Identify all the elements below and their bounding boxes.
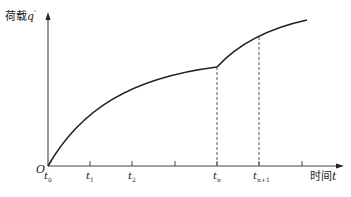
- tick-label-t2: t2: [128, 171, 136, 183]
- x-axis-label: 时间t: [310, 171, 336, 182]
- tick-label-t0: t0: [44, 171, 52, 183]
- x-axis-arrow-icon: [336, 164, 344, 169]
- tick-label-t1: t1: [86, 171, 94, 183]
- load-curve-segment-2: [217, 20, 307, 67]
- load-time-diagram: [0, 0, 351, 197]
- y-axis-label: 荷载q': [5, 10, 36, 22]
- y-axis-arrow-icon: [46, 12, 51, 20]
- load-curve-segment-1: [48, 67, 217, 166]
- tick-label-tn: tn: [213, 171, 221, 183]
- x-axis-ticks: [90, 161, 302, 166]
- tick-label-tn1: tn+1: [253, 171, 270, 183]
